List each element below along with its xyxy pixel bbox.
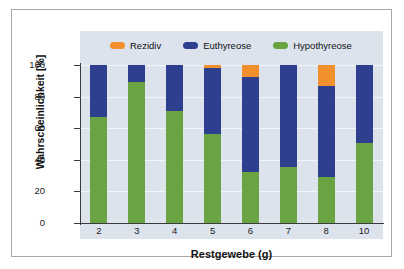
x-axis-tick-label: 5	[193, 226, 233, 236]
legend-swatch-icon	[110, 42, 125, 49]
bar-stack	[128, 65, 145, 223]
x-axis-tick-label: 7	[268, 226, 308, 236]
y-axis-tick-label: 40	[5, 155, 45, 165]
x-axis-tick-label: 8	[306, 226, 346, 236]
chart-legend: RezidivEuthyreoseHypothyreose	[110, 41, 352, 51]
bar-segment-hypothyreose	[90, 117, 107, 223]
x-axis-tick-label: 3	[117, 226, 157, 236]
gridline	[80, 191, 383, 192]
legend-item: Rezidiv	[110, 41, 161, 51]
bar-segment-euthyreose	[356, 65, 373, 143]
bar-stack	[90, 65, 107, 223]
legend-label: Euthyreose	[203, 41, 251, 51]
bar-stack	[356, 65, 373, 223]
legend-swatch-icon	[273, 42, 288, 49]
bar-segment-hypothyreose	[204, 134, 221, 223]
bar-segment-euthyreose	[90, 65, 107, 117]
y-axis-tick	[74, 65, 80, 66]
figure-frame: Wahrscheinlichkeit [%] Restgewebe (g) Re…	[11, 9, 392, 257]
plot-area	[80, 65, 383, 223]
gridline	[80, 97, 383, 98]
gridline	[80, 160, 383, 161]
x-axis-tick-label: 4	[155, 226, 195, 236]
bar-stack	[204, 65, 221, 223]
y-axis-tick-label: 0	[5, 218, 45, 228]
x-axis-tick-label: 6	[230, 226, 270, 236]
bar-stack	[242, 65, 259, 223]
bar-segment-rezidiv	[318, 65, 335, 86]
legend-item: Euthyreose	[183, 41, 251, 51]
bar-segment-hypothyreose	[242, 172, 259, 223]
y-axis-tick	[74, 160, 80, 161]
bar-segment-euthyreose	[128, 65, 145, 82]
bar-segment-euthyreose	[242, 77, 259, 173]
y-axis-tick	[74, 128, 80, 129]
bar-segment-euthyreose	[280, 65, 297, 167]
y-axis-tick-label: 60	[5, 123, 45, 133]
y-axis-tick	[74, 223, 80, 224]
x-axis-title: Restgewebe (g)	[80, 248, 383, 260]
bar-stack	[280, 65, 297, 223]
bar-segment-euthyreose	[318, 86, 335, 178]
bar-stack	[318, 65, 335, 223]
bar-stack	[166, 65, 183, 223]
x-axis-tick-label: 2	[79, 226, 119, 236]
bar-segment-hypothyreose	[280, 167, 297, 223]
legend-label: Hypothyreose	[293, 41, 352, 51]
x-axis-tick-label: 10	[344, 226, 384, 236]
legend-item: Hypothyreose	[273, 41, 352, 51]
bar-segment-rezidiv	[242, 65, 259, 77]
bar-segment-hypothyreose	[356, 143, 373, 223]
bar-segment-euthyreose	[166, 65, 183, 111]
x-axis-line	[80, 223, 384, 224]
bar-segment-hypothyreose	[166, 111, 183, 223]
gridline	[80, 65, 383, 66]
y-axis-line	[80, 63, 81, 225]
y-axis-tick	[74, 97, 80, 98]
bar-segment-hypothyreose	[128, 82, 145, 223]
y-axis-tick-label: 100	[5, 60, 45, 70]
y-axis-tick-label: 80	[5, 92, 45, 102]
y-axis-tick-label: 20	[5, 186, 45, 196]
figure-root: Wahrscheinlichkeit [%] Restgewebe (g) Re…	[0, 0, 404, 269]
legend-label: Rezidiv	[130, 41, 161, 51]
bar-segment-euthyreose	[204, 68, 221, 134]
y-axis-tick	[74, 191, 80, 192]
legend-swatch-icon	[183, 42, 198, 49]
bar-segment-hypothyreose	[318, 177, 335, 223]
gridline	[80, 128, 383, 129]
